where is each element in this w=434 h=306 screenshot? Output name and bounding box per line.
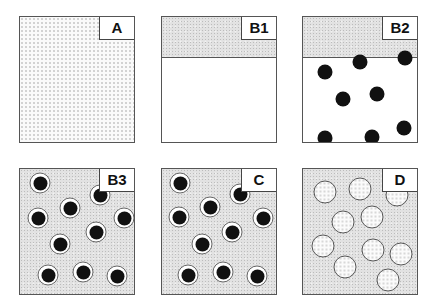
panel-b3: B3 — [19, 168, 135, 295]
particle-core — [89, 225, 103, 239]
hollow-particle — [349, 178, 372, 201]
solid-particle — [397, 121, 412, 136]
panel-label-b3: B3 — [99, 169, 134, 192]
hollow-particle — [361, 206, 384, 229]
coated-particle — [73, 262, 94, 283]
solid-particle — [336, 92, 351, 107]
coated-particle — [38, 265, 59, 286]
coated-particle — [114, 208, 135, 229]
hollow-particle — [314, 181, 337, 204]
coated-particle — [192, 234, 213, 255]
particle-core — [117, 211, 131, 225]
hollow-particle — [390, 243, 413, 266]
coated-particle — [86, 222, 107, 243]
particle-core — [31, 211, 45, 225]
coated-particle — [60, 198, 81, 219]
panel-label-b2: B2 — [382, 17, 417, 40]
hollow-particle — [312, 235, 335, 258]
panel-label-d: D — [382, 169, 417, 192]
particle-core — [225, 225, 239, 239]
particle-core — [216, 265, 230, 279]
hollow-particle — [334, 256, 357, 279]
panel-label-b1: B1 — [241, 17, 276, 40]
coated-particle — [222, 222, 243, 243]
particle-core — [76, 265, 90, 279]
hollow-particle — [332, 211, 355, 234]
solid-particle — [398, 51, 413, 66]
particle-core — [256, 211, 270, 225]
coated-particle — [200, 197, 221, 218]
particle-core — [172, 210, 186, 224]
solid-particle — [318, 65, 333, 80]
particle-core — [53, 237, 67, 251]
panel-label-a: A — [99, 17, 134, 40]
panel-a: A — [19, 16, 135, 143]
particle-core — [203, 200, 217, 214]
particle-core — [110, 269, 124, 283]
coated-particle — [178, 265, 199, 286]
coated-particle — [169, 207, 190, 228]
particle-core — [33, 176, 47, 190]
hollow-particle — [362, 239, 385, 262]
panel-c: C — [161, 168, 277, 295]
coated-particle — [28, 208, 49, 229]
coated-particle — [50, 234, 71, 255]
coated-particle — [107, 266, 128, 287]
solid-particle — [370, 87, 385, 102]
coated-particle — [247, 266, 268, 287]
panel-label-c: C — [241, 169, 276, 192]
particle-core — [63, 201, 77, 215]
particle-core — [181, 268, 195, 282]
coated-particle — [170, 173, 191, 194]
coated-particle — [213, 262, 234, 283]
coated-particle — [30, 173, 51, 194]
particle-core — [41, 268, 55, 282]
solid-particle — [318, 131, 333, 144]
particle-core — [173, 176, 187, 190]
solid-particle — [353, 55, 368, 70]
panel-b1: B1 — [161, 16, 277, 143]
coated-particle — [253, 208, 274, 229]
panel-b2: B2 — [302, 16, 418, 143]
particle-core — [250, 269, 264, 283]
hollow-particle — [377, 269, 400, 292]
panel-d: D — [302, 168, 418, 295]
solid-particle — [365, 130, 380, 144]
particle-core — [195, 237, 209, 251]
